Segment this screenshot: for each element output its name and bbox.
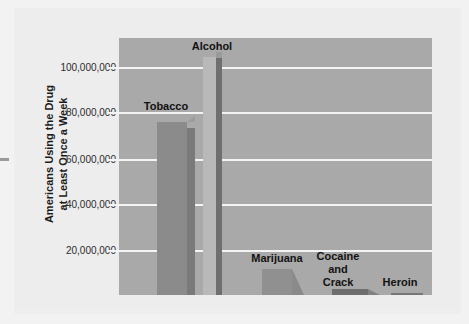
bar-alcohol-side [216,57,222,295]
y-tick-label-20m: 20,000,000 [24,246,116,256]
bar-label-alcohol: Alcohol [174,40,250,53]
bar-marijuana-side [292,269,304,295]
y-tick-stub-60m [107,159,119,161]
bar-label-cocaine-and-crack: Cocaine and Crack [307,250,369,289]
y-tick-stub-40m [107,204,119,206]
bar-marijuana [262,269,292,295]
bar-heroin [391,293,423,295]
bar-alcohol [203,57,221,295]
bar-cocaine-side [368,289,380,295]
bar-tobacco-side [187,128,195,295]
y-tick-stub-20m [107,250,119,252]
bar-heroin-face [391,293,423,295]
y-tick-label-40m: 40,000,000 [24,200,116,210]
margin-tick-mark [0,158,9,161]
bar-marijuana-face [262,269,292,295]
y-tick-label-100m: 100,000,000 [24,63,116,73]
bar-cocaine-and-crack [332,289,368,295]
y-axis-tick-labels: 100,000,000 80,000,000 60,000,000 40,000… [22,0,116,324]
y-tick-label-60m: 60,000,000 [24,155,116,165]
y-tick-stub-100m [107,67,119,69]
bar-cocaine-face [332,289,368,295]
y-tick-stub-80m [107,112,119,114]
gridline-100m [119,67,432,69]
bar-tobacco [157,122,187,295]
bar-label-heroin: Heroin [372,276,428,289]
bar-tobacco-face [157,122,187,295]
chart-figure: Americans Using the Drugat Least Once a … [0,0,469,324]
bar-tobacco-top [187,116,195,122]
y-tick-label-80m: 80,000,000 [24,108,116,118]
bar-label-marijuana: Marijuana [238,252,316,265]
bar-label-tobacco: Tobacco [128,100,204,113]
